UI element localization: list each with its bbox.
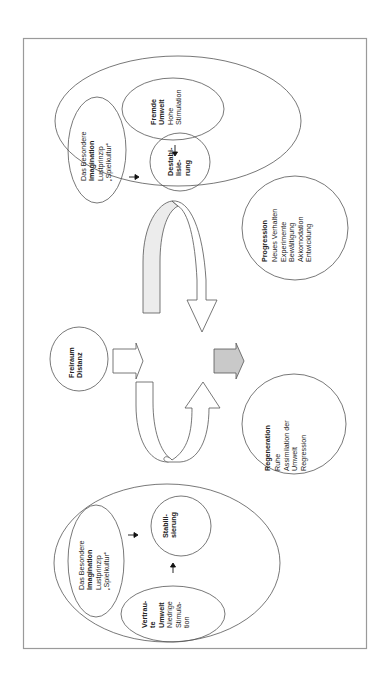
curved-arrow-bottom-icon (136, 382, 220, 462)
frame-border (24, 39, 367, 649)
progression-title: Progression (261, 209, 269, 262)
top-besondere-text: Das Besondere Imagination Lustprinzip „S… (80, 131, 114, 181)
vertraute-umwelt-text: Vertrau- te Umwelt Niedrige Stimula- tio… (141, 601, 191, 628)
fremde-umwelt-text: Fremde Umwelt Hohe Stimulation (150, 89, 184, 125)
destabilisierung-text: Destabi- lisie- rung (167, 148, 192, 176)
bottom-besondere-text: Das Besondere Imagination Lustprinzip „S… (78, 540, 112, 590)
curved-arrow-top-icon (143, 201, 217, 332)
stabilisierung-text: Stabili- sierung (162, 512, 179, 538)
regeneration-title: Regeneration (264, 420, 272, 471)
besondere-line4: „Spielkultur“ (105, 131, 113, 181)
arrow-besondere-to-stabil-icon (128, 533, 138, 538)
progression-item: Entwicklung (305, 209, 313, 262)
vertraute-line6: tion (183, 601, 191, 628)
arrow-vertraute-to-stabil-icon (171, 563, 176, 573)
regeneration-item: Regression (300, 420, 308, 471)
progression-text: Progression Neues Verhalten Experimente … (261, 209, 313, 262)
diagram-canvas: Das Besondere Imagination Lustprinzip „S… (0, 0, 389, 683)
destab-line3: rung (184, 148, 192, 176)
arrow-besondere-to-destab-icon (129, 175, 139, 180)
regeneration-text: Regeneration Ruhe Assimilation der Umwel… (264, 420, 308, 471)
fremde-line4: Stimulation (175, 89, 183, 125)
outcome-arrow-icon (214, 343, 244, 379)
besondere-line4: „Spielkultur“ (103, 540, 111, 590)
stabil-line2: sierung (170, 512, 178, 538)
diagram-shapes (0, 0, 389, 683)
stabilisierung-circle (151, 496, 211, 556)
freiraum-text: Freiraum Distanz (68, 347, 85, 378)
freiraum-line2: Distanz (76, 347, 84, 378)
freiraum-arrow-icon (113, 343, 143, 379)
